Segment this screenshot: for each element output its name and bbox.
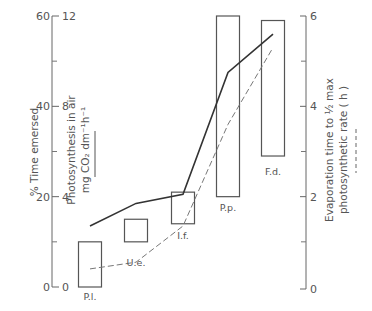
left-outer-tick-label: 60: [36, 10, 50, 23]
chart: 002044086012 0246 P.l.U.e.I.f.P.p.F.d. %…: [0, 0, 372, 311]
range-bar-pp: [217, 16, 240, 197]
category-labels: P.l.U.e.I.f.P.p.F.d.: [84, 166, 281, 302]
category-label-pl: P.l.: [84, 291, 97, 302]
left-outer-tick-label: 0: [43, 281, 50, 294]
right-tick-label: 4: [310, 100, 317, 113]
right-tick-label: 6: [310, 10, 317, 23]
right-axis-title-line1: Evaporation time to ½ max: [323, 78, 335, 222]
right-tick-label: 0: [310, 283, 317, 296]
right-axis-title-line2: photosynthetic rate ( h ): [337, 86, 349, 214]
category-label-fd: F.d.: [265, 166, 281, 177]
left-outer-axis-title: % Time emersed: [28, 108, 40, 196]
range-bar-pl: [79, 242, 102, 287]
range-bar-if: [172, 192, 195, 224]
category-label-if: I.f.: [177, 230, 189, 241]
left-inner-axis-title: Photosynthesis in air mg CO₂ dm⁻¹h⁻¹: [65, 95, 95, 205]
left-inner-axis-title-line2: mg CO₂ dm⁻¹h⁻¹: [79, 107, 91, 193]
left-inner-tick-label: 12: [62, 10, 76, 23]
category-label-pp: P.p.: [220, 202, 236, 213]
range-bar-ue: [125, 219, 148, 242]
photosynthesis-line: [90, 34, 273, 226]
right-tick-label: 2: [310, 191, 317, 204]
right-axis-title: Evaporation time to ½ max photosynthetic…: [323, 78, 356, 222]
left-inner-axis-title-line1: Photosynthesis in air: [65, 95, 77, 205]
right-axis: 0246: [300, 10, 317, 296]
range-bars: [79, 16, 285, 287]
category-label-ue: U.e.: [127, 257, 146, 268]
left-inner-tick-label: 0: [62, 281, 69, 294]
